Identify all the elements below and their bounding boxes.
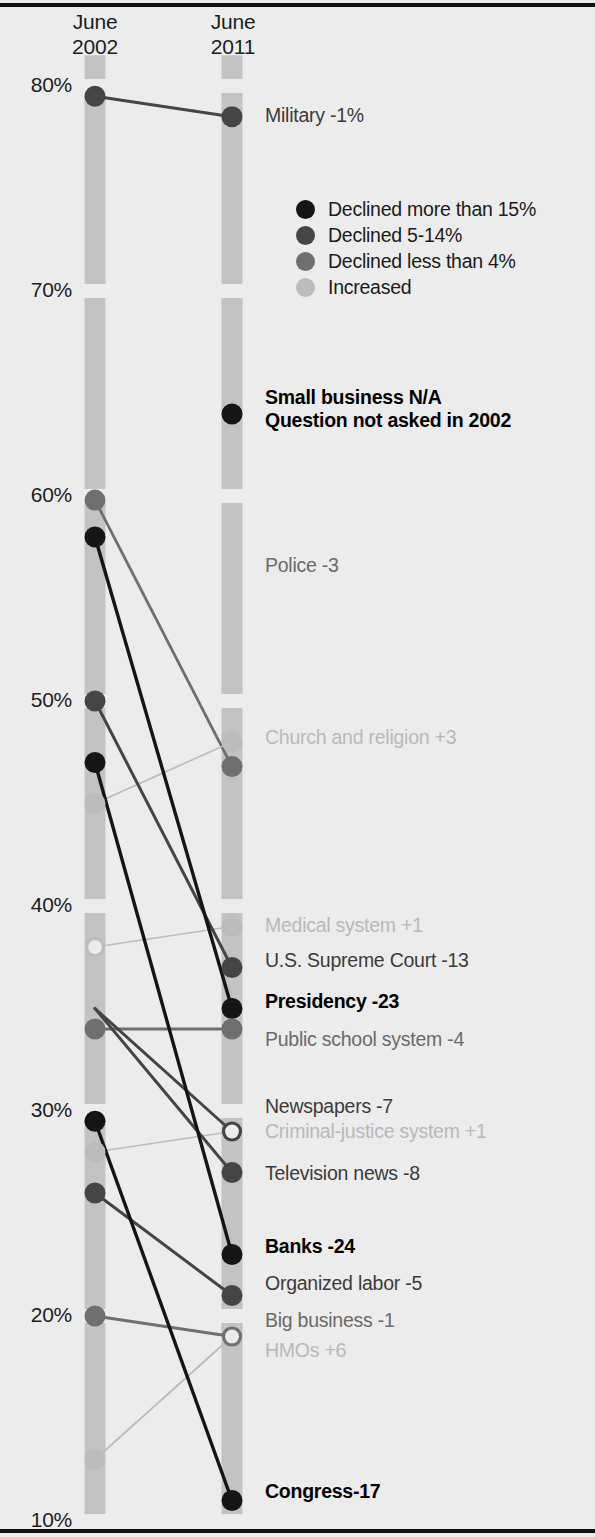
legend-item-label: Declined less than 4%: [328, 250, 516, 273]
y-tick-80: 80%: [0, 73, 72, 97]
series-label-criminal-justice-system: Criminal-justice system +1: [265, 1120, 487, 1143]
dot-2002: [85, 86, 106, 107]
series-label-police: Police -3: [265, 554, 339, 577]
column-bar-segment: [85, 298, 106, 489]
legend-swatch-icon: [296, 252, 315, 271]
dot-2011: [222, 732, 243, 753]
series-label-text: Military -1%: [265, 104, 364, 126]
dot-2011: [222, 1019, 243, 1040]
legend-item-label: Increased: [328, 276, 411, 299]
series-label-presidency: Presidency -23: [265, 990, 399, 1013]
legend: Declined more than 15%Declined 5-14%Decl…: [296, 196, 536, 300]
dot-2011: [222, 916, 243, 937]
legend-item-cat0: Declined more than 15%: [296, 196, 536, 222]
series-label-text: Public school system -4: [265, 1028, 464, 1050]
dot-2002: [85, 1306, 106, 1327]
series-label-organized-labor: Organized labor -5: [265, 1272, 422, 1295]
dot-2011: [222, 1162, 243, 1183]
dot-2011: [222, 106, 243, 127]
y-tick-70: 70%: [0, 278, 72, 302]
series-label-text: Big business -1: [265, 1309, 395, 1331]
y-tick-10: 10%: [0, 1508, 72, 1532]
series-label-text: Medical system +1: [265, 914, 423, 936]
series-label-text: Newspapers -7: [265, 1095, 393, 1117]
dot-2011: [222, 1285, 243, 1306]
dot-2002: [85, 527, 106, 548]
series-label-u-s-supreme-court: U.S. Supreme Court -13: [265, 949, 469, 972]
legend-item-label: Declined more than 15%: [328, 198, 536, 221]
series-label-newspapers: Newspapers -7: [265, 1095, 393, 1118]
dot-2011: [222, 756, 243, 777]
series-label-church-and-religion: Church and religion +3: [265, 726, 456, 749]
dot-2002: [85, 752, 106, 773]
dot-2011: [222, 404, 243, 425]
series-label-text: U.S. Supreme Court -13: [265, 949, 469, 971]
series-label-small-business: Small business N/AQuestion not asked in …: [265, 386, 511, 432]
column-bar-segment: [85, 1323, 106, 1514]
dot-2011: [224, 1328, 241, 1345]
slope-line: [95, 1193, 232, 1296]
series-label-text: Police -3: [265, 554, 339, 576]
column-bar-segment: [222, 503, 243, 694]
series-label-banks: Banks -24: [265, 1235, 355, 1258]
series-label-text: Criminal-justice system +1: [265, 1120, 487, 1142]
slope-chart: June 2002 June 2011 80%70%60%50%40%30%20…: [0, 0, 595, 1537]
series-label-big-business: Big business -1: [265, 1309, 395, 1332]
slope-lines: [95, 96, 232, 1500]
series-label-medical-system: Medical system +1: [265, 914, 423, 937]
slope-line: [95, 537, 232, 1009]
series-label-congress: Congress-17: [265, 1480, 380, 1503]
dot-2002: [87, 939, 104, 956]
column-bar-segment: [222, 298, 243, 489]
dot-2002: [85, 1142, 106, 1163]
series-label-television-news: Television news -8: [265, 1162, 420, 1185]
dot-2002: [85, 1183, 106, 1204]
series-label-text: Banks -24: [265, 1235, 355, 1257]
column-bar-segment: [85, 93, 106, 284]
dot-2011: [222, 1490, 243, 1511]
dot-2002: [85, 691, 106, 712]
y-tick-60: 60%: [0, 483, 72, 507]
slope-line: [95, 96, 232, 117]
series-label-text: Television news -8: [265, 1162, 420, 1184]
y-tick-50: 50%: [0, 688, 72, 712]
dot-2002: [85, 793, 106, 814]
y-tick-30: 30%: [0, 1098, 72, 1122]
y-tick-40: 40%: [0, 893, 72, 917]
column-bar-segment: [222, 55, 243, 79]
series-label-note: Question not asked in 2002: [265, 409, 511, 432]
dot-2011: [222, 1244, 243, 1265]
series-label-text: HMOs +6: [265, 1339, 346, 1361]
series-label-hmos: HMOs +6: [265, 1339, 346, 1362]
y-tick-20: 20%: [0, 1303, 72, 1327]
legend-item-cat3: Increased: [296, 274, 536, 300]
dot-2011: [222, 998, 243, 1019]
legend-swatch-icon: [296, 226, 315, 245]
series-label-public-school-system: Public school system -4: [265, 1028, 464, 1051]
dot-2011: [224, 1123, 241, 1140]
column-bar-segment: [85, 55, 106, 79]
series-label-military: Military -1%: [265, 104, 364, 127]
column-bars: [85, 55, 243, 1514]
legend-item-cat1: Declined 5-14%: [296, 222, 536, 248]
slope-line: [95, 1316, 232, 1337]
dot-2002: [85, 490, 106, 511]
dot-2002: [85, 1449, 106, 1470]
slope-line: [95, 1009, 232, 1173]
dot-2011: [222, 957, 243, 978]
dot-2002: [85, 1111, 106, 1132]
dot-2002: [85, 1019, 106, 1040]
series-label-text: Organized labor -5: [265, 1272, 422, 1294]
legend-item-cat2: Declined less than 4%: [296, 248, 536, 274]
slope-line: [95, 500, 232, 766]
slope-line: [95, 1009, 232, 1132]
series-label-text: Presidency -23: [265, 990, 399, 1012]
legend-item-label: Declined 5-14%: [328, 224, 462, 247]
series-label-text: Congress-17: [265, 1480, 380, 1502]
legend-swatch-icon: [296, 278, 315, 297]
series-label-text: Church and religion +3: [265, 726, 456, 748]
column-bar-segment: [222, 1118, 243, 1309]
legend-swatch-icon: [296, 200, 315, 219]
column-bar-segment: [222, 1323, 243, 1514]
series-label-text: Small business N/A: [265, 386, 441, 408]
